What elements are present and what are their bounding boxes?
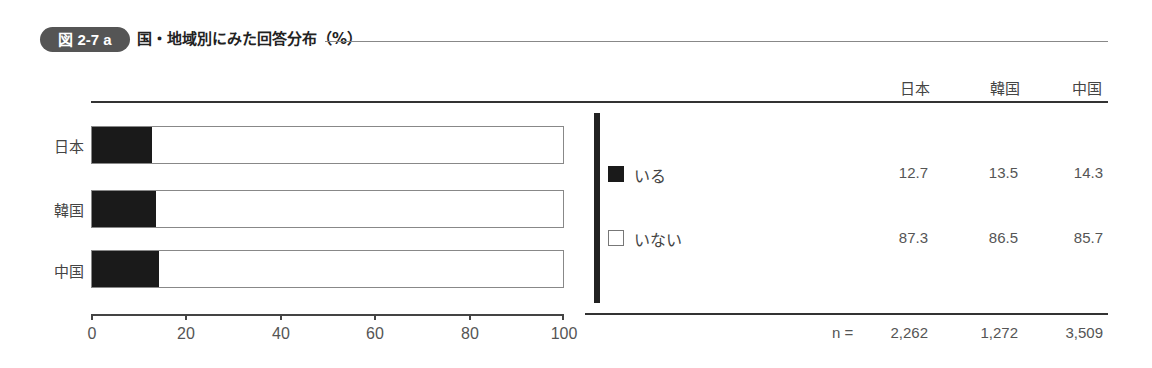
x-tick-label: 40 xyxy=(256,325,306,343)
bar-korea xyxy=(91,190,564,228)
n-value-japan: 2,262 xyxy=(868,324,928,341)
x-tick-label: 0 xyxy=(67,325,117,343)
figure-title: 国・地域別にみた回答分布（%） xyxy=(137,28,362,50)
legend-label-present: いる xyxy=(634,163,666,187)
n-value-korea: 1,272 xyxy=(958,324,1018,341)
value-cell: 85.7 xyxy=(1043,229,1103,246)
legend-swatch-present xyxy=(608,166,624,182)
x-tick xyxy=(469,314,471,320)
value-cell: 13.5 xyxy=(958,164,1018,181)
x-tick xyxy=(91,314,93,320)
x-tick xyxy=(280,314,282,320)
x-tick-label: 20 xyxy=(161,325,211,343)
value-cell: 14.3 xyxy=(1043,164,1103,181)
column-header-japan: 日本 xyxy=(870,77,930,98)
x-tick xyxy=(185,314,187,320)
category-label-korea: 韓国 xyxy=(34,199,84,220)
x-tick xyxy=(562,314,564,320)
bar-fill-korea xyxy=(92,191,156,227)
column-header-korea: 韓国 xyxy=(960,77,1020,98)
x-axis-line xyxy=(91,314,564,316)
category-label-japan: 日本 xyxy=(34,135,84,156)
bar-china xyxy=(91,250,564,288)
value-cell: 12.7 xyxy=(868,164,928,181)
legend-label-absent: いない xyxy=(634,227,682,251)
bottom-rule xyxy=(585,313,1108,315)
x-tick-label: 100 xyxy=(539,325,589,343)
figure-badge: 図 2-7 a xyxy=(40,27,130,52)
bar-fill-china xyxy=(92,251,159,287)
table-divider-bar xyxy=(594,113,600,303)
category-label-china: 中国 xyxy=(34,260,84,281)
top-rule xyxy=(91,101,1108,103)
value-cell: 86.5 xyxy=(958,229,1018,246)
bar-fill-japan xyxy=(92,127,152,163)
bar-japan xyxy=(91,126,564,164)
x-tick-label: 60 xyxy=(350,325,400,343)
legend-swatch-absent xyxy=(608,230,624,246)
x-tick-label: 80 xyxy=(445,325,495,343)
x-tick xyxy=(374,314,376,320)
column-header-china: 中国 xyxy=(1042,77,1102,98)
n-label: n = xyxy=(832,324,853,341)
value-cell: 87.3 xyxy=(868,229,928,246)
title-rule xyxy=(325,41,1108,42)
n-value-china: 3,509 xyxy=(1043,324,1103,341)
